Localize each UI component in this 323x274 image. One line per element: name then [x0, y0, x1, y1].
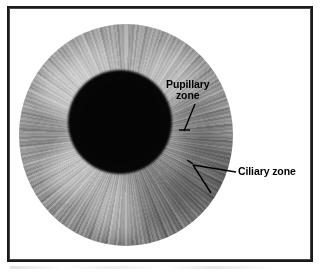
- label-pupillary-zone-line2: zone: [166, 90, 209, 101]
- figure-root: Pupillary zone Ciliary zone: [0, 0, 323, 274]
- eye-illustration: [19, 24, 233, 246]
- scan-artifact: [10, 266, 310, 269]
- pupil: [68, 70, 172, 174]
- label-pupillary-zone: Pupillary zone: [166, 79, 209, 101]
- label-ciliary-zone: Ciliary zone: [238, 166, 296, 177]
